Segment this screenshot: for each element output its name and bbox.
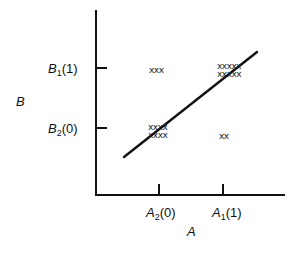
a2-letter: A: [146, 205, 155, 220]
y-tick-label-b1: B1(1): [48, 61, 78, 78]
b2-value: (0): [62, 121, 78, 136]
x-axis-title-text: A: [187, 224, 196, 239]
marks-a1-b1-row2: xxxxx: [217, 70, 241, 78]
x-axis-title: A: [187, 224, 196, 239]
y-axis-title-text: B: [16, 94, 25, 109]
b1-value: (1): [62, 61, 78, 76]
b2-letter: B: [48, 121, 57, 136]
y-tick-label-b2: B2(0): [48, 121, 78, 138]
x-tick-label-a2: A2(0): [146, 205, 176, 222]
x-tick-label-a1: A1(1): [212, 205, 242, 222]
y-axis-title: B: [16, 94, 25, 109]
b1-letter: B: [48, 61, 57, 76]
marks-a0-b0-row2: xxxx: [148, 131, 167, 139]
marks-a1-b0: xx: [219, 132, 229, 140]
a1-letter: A: [212, 205, 221, 220]
a2-value: (0): [160, 205, 176, 220]
a1-value: (1): [226, 205, 242, 220]
marks-a0-b1: xxx: [149, 66, 163, 74]
